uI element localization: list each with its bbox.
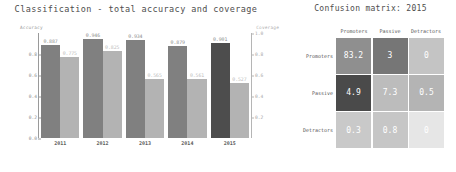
bar-plot-area: 0.00.20.40.60.8 0.20.40.60.81.0 0.8870.7… [39, 33, 251, 138]
coverage-bar: 0.775 [60, 57, 79, 138]
accuracy-bar-value: 0.887 [43, 38, 57, 44]
x-axis-tick-label: 2013 [139, 140, 151, 146]
coverage-bar-value: 0.561 [190, 72, 204, 78]
y-axis-left-tick: 0.2 [29, 115, 37, 120]
confusion-matrix-row-header: Detractors [285, 127, 333, 133]
confusion-matrix-cell: 83.2 [336, 38, 371, 74]
y-axis-left-tick: 0.4 [29, 94, 37, 99]
bar-group: 0.9340.5652013 [126, 33, 165, 138]
confusion-matrix-title: Confusion matrix: 2015 [285, 4, 456, 13]
x-axis-tick-label: 2015 [224, 140, 236, 146]
coverage-bar: 0.825 [103, 51, 122, 138]
bar-chart-panel: Classification - total accuracy and cove… [0, 0, 285, 172]
coverage-bar-value: 0.825 [105, 44, 119, 50]
y-axis-left-label: Accuracy [20, 25, 43, 30]
confusion-matrix-row-header: Promoters [285, 53, 333, 59]
bar-group: 0.8870.7752011 [41, 33, 80, 138]
y-axis-right-line [251, 33, 252, 138]
confusion-matrix-row-header: Passive [285, 90, 333, 96]
x-axis-tick-label: 2011 [54, 140, 66, 146]
y-axis-right-tick: 0.6 [255, 73, 263, 78]
accuracy-bar: 0.879 [168, 46, 187, 138]
confusion-matrix-column-header: Passive [372, 28, 408, 38]
confusion-matrix-cell: 0 [409, 112, 444, 148]
coverage-bar-value: 0.565 [148, 72, 162, 78]
bar-group: 0.9460.8252012 [83, 33, 122, 138]
confusion-matrix-grid: 83.2304.97.30.50.30.80 [336, 38, 444, 148]
x-axis-tick-label: 2012 [97, 140, 109, 146]
accuracy-bar-value: 0.901 [213, 36, 227, 42]
x-axis-tick-label: 2014 [181, 140, 193, 146]
coverage-bar: 0.561 [187, 79, 206, 138]
accuracy-bar: 0.901 [211, 43, 230, 138]
accuracy-bar-value: 0.934 [128, 33, 142, 39]
coverage-bar-value: 0.775 [63, 50, 77, 56]
coverage-bar: 0.565 [145, 79, 164, 138]
coverage-bar: 0.527 [230, 83, 249, 138]
accuracy-bar-value: 0.879 [171, 39, 185, 45]
y-axis-right-tick: 0.4 [255, 94, 263, 99]
confusion-matrix-column-header: Promoters [336, 28, 372, 38]
y-axis-right-tick: 0.2 [255, 115, 263, 120]
accuracy-bar: 0.887 [41, 45, 60, 138]
bar-group: 0.8790.5612014 [168, 33, 207, 138]
confusion-matrix-panel: Confusion matrix: 2015 PromotersPassiveD… [285, 0, 456, 172]
confusion-matrix-cell: 3 [373, 38, 408, 74]
accuracy-bar-value: 0.946 [86, 32, 100, 38]
confusion-matrix-cell: 0.8 [373, 112, 408, 148]
figure-root: Classification - total accuracy and cove… [0, 0, 456, 172]
confusion-matrix-column-header: Detractors [408, 28, 444, 38]
y-axis-left-tick: 0.6 [29, 73, 37, 78]
bar-chart-title: Classification - total accuracy and cove… [0, 4, 272, 14]
accuracy-bar: 0.946 [83, 39, 102, 138]
accuracy-bar: 0.934 [126, 40, 145, 138]
coverage-bar-value: 0.527 [232, 76, 246, 82]
confusion-matrix-cell: 7.3 [373, 75, 408, 111]
y-axis-left-tick: 0.0 [29, 136, 37, 141]
y-axis-left-tick: 0.8 [29, 52, 37, 57]
confusion-matrix-cell: 4.9 [336, 75, 371, 111]
confusion-matrix-cell: 0 [409, 38, 444, 74]
confusion-matrix-cell: 0.5 [409, 75, 444, 111]
y-axis-right-label: Coverage [256, 25, 279, 30]
y-axis-right-tick: 0.8 [255, 52, 263, 57]
bar-group: 0.9010.5272015 [211, 33, 250, 138]
confusion-matrix-column-headers: PromotersPassiveDetractors [336, 28, 444, 38]
y-axis-right-tick: 1.0 [255, 31, 263, 36]
confusion-matrix-cell: 0.3 [336, 112, 371, 148]
